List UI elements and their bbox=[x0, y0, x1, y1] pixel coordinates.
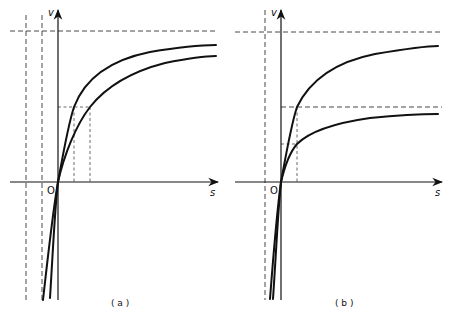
origin-label-a: O bbox=[47, 185, 55, 196]
x-axis-label-b: s bbox=[435, 187, 440, 198]
y-axis-label-b: v bbox=[271, 7, 278, 18]
saturation-curve-b-2 bbox=[270, 114, 438, 299]
origin-label-b: O bbox=[270, 185, 278, 196]
panel-caption-a: ( a ) bbox=[111, 298, 129, 308]
figure-canvas: v s O ( a ) v s O ( b ) bbox=[0, 0, 450, 313]
saturation-curve-a-2 bbox=[43, 56, 216, 300]
y-axis-label-a: v bbox=[48, 7, 55, 18]
panel-b: v s O ( b ) bbox=[235, 7, 442, 308]
saturation-curve-b-1 bbox=[273, 46, 438, 299]
saturation-curve-a-1 bbox=[50, 45, 216, 298]
x-axis-label-a: s bbox=[210, 187, 215, 198]
panel-a: v s O ( a ) bbox=[10, 7, 218, 308]
panel-caption-b: ( b ) bbox=[335, 298, 353, 308]
